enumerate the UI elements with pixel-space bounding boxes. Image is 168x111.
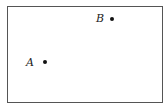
diagram-frame [7,6,163,103]
point-a-dot [43,60,47,64]
point-a-label: A [26,57,34,68]
point-b-dot [110,17,114,21]
point-b-label: B [96,13,104,24]
